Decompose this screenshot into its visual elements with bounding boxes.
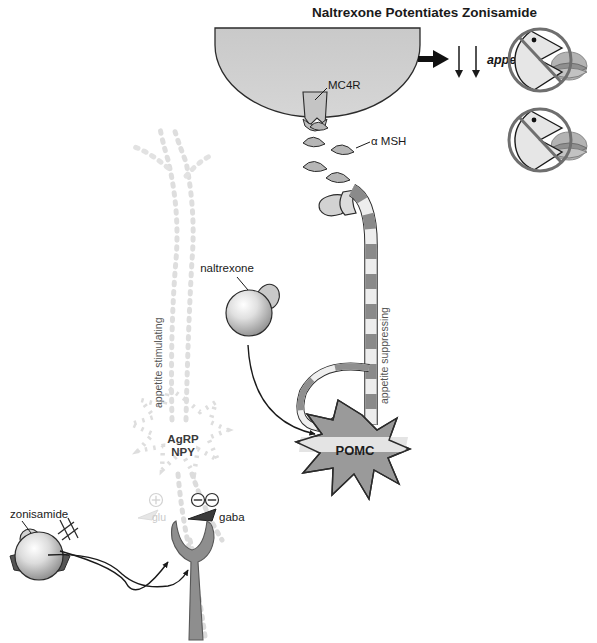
appetite-eating-icon-2 [509, 109, 587, 171]
pomc-axon [300, 190, 371, 430]
appetite-stimulating-label: appetite stimulating [152, 317, 164, 408]
glu-label: glu [152, 511, 166, 523]
agrp-label: AgRP [167, 433, 199, 445]
gaba-terminal[interactable] [172, 521, 215, 640]
alpha-msh-vesicle [303, 161, 327, 171]
alpha-msh-vesicle [331, 145, 354, 155]
signaling-diagram: MC4R α MSH [0, 0, 597, 643]
npy-label: NPY [171, 446, 195, 458]
alpha-msh-label: α MSH [371, 135, 406, 147]
appetite-decrease-arrows [455, 46, 480, 78]
right-arrow [418, 50, 449, 68]
mc4r-label: MC4R [328, 79, 361, 91]
naltrexone-label: naltrexone [200, 262, 254, 274]
signal-arrow-zonisamide-agrp [60, 551, 168, 590]
appetite-eating-icon-1 [509, 29, 587, 91]
figure-canvas: MC4R α MSH [0, 0, 597, 643]
naltrexone-molecule[interactable] [226, 277, 283, 336]
zonisamide-molecule[interactable] [10, 518, 78, 580]
alpha-msh-vesicle [326, 172, 350, 182]
appetite-suppressing-label: appetite suppressing [378, 307, 390, 404]
pomc-label: POMC [336, 443, 376, 458]
alpha-msh-vesicle [303, 137, 325, 147]
agrp-npy-neuron[interactable] [131, 128, 228, 636]
gaba-label: gaba [219, 511, 245, 523]
figure-title: Naltrexone Potentiates Zonisamide [312, 5, 538, 20]
zonisamide-label: zonisamide [10, 508, 68, 520]
